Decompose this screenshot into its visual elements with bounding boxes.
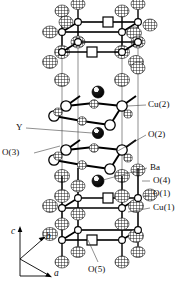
axis-label-a: a [54,268,59,278]
label-o1: O(1) [153,188,170,198]
ba-atom-lower [92,175,104,187]
top-chain-layer [62,22,138,32]
bottom-chain-layer-2 [62,230,138,240]
structure-drawing [0,0,192,287]
label-o4: O(4) [153,175,170,185]
y-atom [92,127,103,138]
ba-atom-upper [92,86,104,98]
label-y: Y [16,122,23,132]
axis-label-b: b [46,231,51,241]
o5-vacancy-squares-top [87,17,113,57]
label-ba: Ba [150,162,160,172]
crystal-structure-figure: Cu(2) O(2) Ba O(4) O(1) Cu(1) Y O(3) O(5… [0,0,192,287]
label-o3: O(3) [2,147,19,157]
o5-vacancy-squares-bottom [87,193,113,245]
label-cu2: Cu(2) [148,99,170,109]
label-o5: O(5) [88,264,105,274]
oxygen-atoms-bottom [43,180,158,268]
axis-label-c: c [11,226,15,236]
apical-oxygens-upper [55,62,146,87]
label-cu1: Cu(1) [153,202,175,212]
label-o2: O(2) [148,129,165,139]
